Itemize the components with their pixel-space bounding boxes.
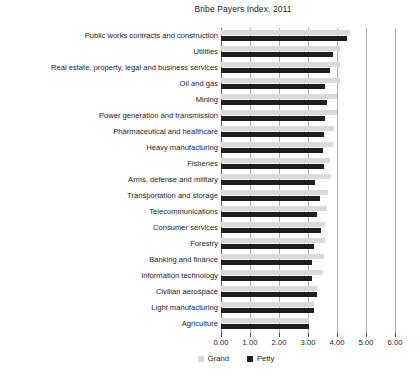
bar-petty xyxy=(221,228,321,233)
x-tickmark xyxy=(250,333,251,337)
legend-swatch-grand-icon xyxy=(198,356,204,362)
legend-label-grand: Grand xyxy=(208,354,229,363)
x-tick-label: 0.00 xyxy=(214,338,229,347)
category-label: Utilities xyxy=(194,48,218,56)
x-tick-label: 3.00 xyxy=(301,338,316,347)
legend-swatch-petty-icon xyxy=(247,356,253,362)
category-label: Pharmaceutical and healthcare xyxy=(113,128,218,136)
bar-grand xyxy=(221,302,314,307)
bar-petty xyxy=(221,164,324,169)
x-tick-label: 2.00 xyxy=(272,338,287,347)
chart-legend: Grand Petty xyxy=(0,354,420,363)
category-label: Real estate, property, legal and busines… xyxy=(51,64,218,72)
bar-row xyxy=(221,190,395,206)
x-tickmark xyxy=(221,333,222,337)
bar-grand xyxy=(221,78,340,83)
bar-row xyxy=(221,62,395,78)
bar-petty xyxy=(221,132,324,137)
category-label: Mining xyxy=(196,96,218,104)
category-label: Power generation and transmission xyxy=(99,112,218,120)
bar-rows xyxy=(221,28,395,333)
x-tickmark xyxy=(279,333,280,337)
category-label: Fisheries xyxy=(187,160,218,168)
bar-row xyxy=(221,222,395,238)
bar-row xyxy=(221,174,395,190)
bar-petty xyxy=(221,324,309,329)
gridline-6 xyxy=(395,28,396,333)
category-label: Civilian aerospace xyxy=(156,288,218,296)
category-label: Consumer services xyxy=(153,224,218,232)
bar-grand xyxy=(221,206,327,211)
bar-row xyxy=(221,78,395,94)
bar-row xyxy=(221,46,395,62)
bar-grand xyxy=(221,318,309,323)
category-label: Information technology xyxy=(141,272,218,280)
bar-petty xyxy=(221,260,312,265)
bar-petty xyxy=(221,276,312,281)
category-label: Light manufacturing xyxy=(151,304,218,312)
bar-row xyxy=(221,94,395,110)
legend-label-petty: Petty xyxy=(257,354,274,363)
bar-row xyxy=(221,254,395,270)
x-tickmark xyxy=(366,333,367,337)
legend-item-grand: Grand xyxy=(198,354,229,363)
bar-row xyxy=(221,270,395,286)
bar-row xyxy=(221,126,395,142)
bar-petty xyxy=(221,212,317,217)
category-label: Forestry xyxy=(190,240,218,248)
bar-grand xyxy=(221,62,340,67)
x-tick-label: 1.00 xyxy=(243,338,258,347)
bar-row xyxy=(221,302,395,318)
bar-row xyxy=(221,286,395,302)
bar-grand xyxy=(221,238,325,243)
bar-grand xyxy=(221,270,323,275)
bar-petty xyxy=(221,292,317,297)
category-label: Agriculture xyxy=(182,320,218,328)
x-tickmark xyxy=(337,333,338,337)
x-tickmark xyxy=(308,333,309,337)
bribe-payers-index-chart: Bribe Payers Index, 2011 Public works co… xyxy=(0,0,420,375)
bar-grand xyxy=(221,174,331,179)
bar-row xyxy=(221,206,395,222)
chart-title: Bribe Payers Index, 2011 xyxy=(0,4,420,14)
bar-petty xyxy=(221,116,325,121)
category-axis-labels: Public works contracts and constructionU… xyxy=(0,28,218,333)
category-label: Public works contracts and construction xyxy=(85,32,218,40)
legend-item-petty: Petty xyxy=(247,354,274,363)
bar-row xyxy=(221,142,395,158)
category-label: Telecommunications xyxy=(149,208,218,216)
bar-petty xyxy=(221,68,330,73)
bar-row xyxy=(221,30,395,46)
category-label: Transportation and storage xyxy=(127,192,218,200)
bar-grand xyxy=(221,110,337,115)
plot-area xyxy=(221,28,395,333)
bar-petty xyxy=(221,196,320,201)
bar-petty xyxy=(221,308,314,313)
bar-petty xyxy=(221,244,314,249)
bar-petty xyxy=(221,148,323,153)
bar-grand xyxy=(221,94,337,99)
bar-petty xyxy=(221,84,325,89)
bar-grand xyxy=(221,46,340,51)
category-label: Heavy manufacturing xyxy=(146,144,218,152)
bar-grand xyxy=(221,286,317,291)
x-tick-label: 6.00 xyxy=(388,338,403,347)
x-axis: 0.001.002.003.004.005.006.00 xyxy=(221,333,395,353)
bar-petty xyxy=(221,180,315,185)
category-label: Arms, defense and military xyxy=(128,176,218,184)
bar-petty xyxy=(221,52,333,57)
x-tickmark xyxy=(395,333,396,337)
bar-grand xyxy=(221,142,333,147)
x-tick-label: 4.00 xyxy=(330,338,345,347)
bar-grand xyxy=(221,126,334,131)
x-tick-label: 5.00 xyxy=(359,338,374,347)
bar-row xyxy=(221,158,395,174)
category-label: Oil and gas xyxy=(180,80,218,88)
bar-row xyxy=(221,238,395,254)
bar-grand xyxy=(221,222,325,227)
bar-row xyxy=(221,110,395,126)
category-label: Banking and finance xyxy=(149,256,218,264)
bar-grand xyxy=(221,254,324,259)
bar-petty xyxy=(221,100,327,105)
bar-grand xyxy=(221,190,328,195)
